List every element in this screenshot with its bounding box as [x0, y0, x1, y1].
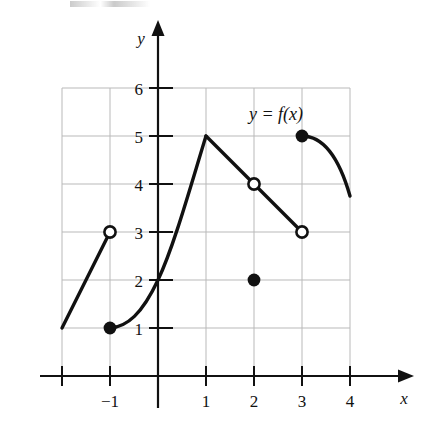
function-graph-figure: 6 5 4 3 2 1 −1 1 2 3 4 y x y = f(x): [0, 0, 430, 435]
filled-point-neg1-1: [104, 322, 117, 335]
x-tick-label: 3: [298, 392, 307, 411]
y-axis-arrowhead: [152, 20, 165, 36]
axes: [40, 36, 398, 408]
y-tick-label: 4: [135, 176, 144, 195]
open-point-3-3: [296, 226, 307, 237]
y-axis-label: y: [135, 29, 145, 48]
segment-right-curve: [302, 136, 350, 196]
x-axis-arrowhead: [398, 370, 414, 383]
open-point-2-4: [248, 178, 259, 189]
y-tick-label: 3: [135, 224, 144, 243]
y-tick-label: 2: [135, 272, 144, 291]
graph-canvas: 6 5 4 3 2 1 −1 1 2 3 4 y x y = f(x): [0, 0, 430, 435]
filled-point-2-2: [248, 274, 261, 287]
open-point-neg1-3: [104, 226, 115, 237]
y-tick-label: 6: [135, 80, 144, 99]
y-tick-labels: 6 5 4 3 2 1: [135, 80, 144, 339]
x-tick-label: −1: [101, 392, 119, 411]
y-tick-label: 1: [135, 320, 144, 339]
x-tick-label: 1: [202, 392, 211, 411]
x-tick-label: 4: [346, 392, 355, 411]
filled-point-3-5: [296, 130, 309, 143]
x-tick-labels: −1 1 2 3 4: [101, 392, 355, 411]
x-axis-label: x: [399, 389, 408, 408]
x-tick-label: 2: [250, 392, 259, 411]
y-tick-label: 5: [135, 128, 144, 147]
curve-equation-label: y = f(x): [247, 104, 303, 125]
